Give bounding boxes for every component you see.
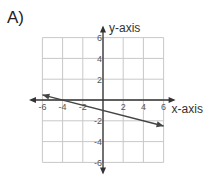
- y-tick-label: -2: [94, 116, 102, 126]
- x-axis-label: x-axis: [172, 102, 203, 116]
- y-axis-arrow-up-icon: [100, 26, 106, 33]
- x-tick-label: 2: [121, 102, 126, 112]
- x-tick-label: -2: [79, 102, 87, 112]
- y-tick-label: 2: [97, 75, 102, 85]
- y-axis-arrow-down-icon: [100, 167, 106, 174]
- y-axis-label: y-axis: [109, 21, 140, 35]
- y-tick-label: 6: [97, 33, 102, 43]
- y-tick-label: -4: [94, 137, 102, 147]
- x-tick-label: 6: [161, 102, 166, 112]
- x-axis-arrow-left-icon: [29, 97, 36, 103]
- x-tick-label: 4: [141, 102, 146, 112]
- x-tick-label: -4: [59, 102, 67, 112]
- y-tick-label: 4: [97, 54, 102, 64]
- coordinate-plane: -6-4-2246642-2-4-6 x-axis y-axis: [0, 0, 210, 178]
- axes: [29, 26, 176, 175]
- x-tick-label: -6: [38, 102, 46, 112]
- y-tick-label: -6: [94, 158, 102, 168]
